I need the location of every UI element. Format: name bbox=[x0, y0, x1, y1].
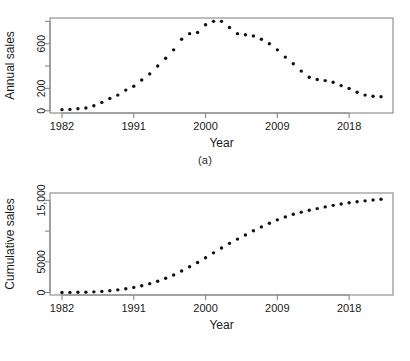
data-point bbox=[108, 289, 111, 292]
data-point bbox=[124, 88, 127, 91]
x-axis-tick-label: 1982 bbox=[50, 120, 74, 132]
data-point bbox=[363, 199, 366, 202]
data-point bbox=[347, 201, 350, 204]
x-axis-tick-label: 2000 bbox=[193, 120, 217, 132]
y-axis-title: Annual sales bbox=[3, 31, 17, 100]
data-point bbox=[252, 34, 255, 37]
data-point bbox=[236, 32, 239, 35]
data-point bbox=[308, 209, 311, 212]
data-point bbox=[132, 286, 135, 289]
data-point bbox=[156, 64, 159, 67]
chart-panel-a: 020060019821991200020092018YearAnnual sa… bbox=[0, 0, 410, 175]
data-point bbox=[236, 237, 239, 240]
x-axis-tick-label: 2009 bbox=[265, 302, 289, 314]
data-point bbox=[379, 198, 382, 201]
y-axis-tick-label: 0 bbox=[35, 108, 47, 114]
data-point bbox=[164, 277, 167, 280]
x-axis-tick-label: 1991 bbox=[122, 302, 146, 314]
figure-container: 020060019821991200020092018YearAnnual sa… bbox=[0, 0, 410, 361]
data-point bbox=[212, 20, 215, 23]
y-axis-tick-label: 15,000 bbox=[35, 184, 47, 216]
y-axis-tick-label: 200 bbox=[35, 79, 47, 97]
data-point bbox=[324, 205, 327, 208]
data-point bbox=[204, 256, 207, 259]
data-point bbox=[60, 291, 63, 294]
x-axis-tick-label: 2018 bbox=[337, 302, 361, 314]
data-point bbox=[180, 269, 183, 272]
data-point bbox=[379, 95, 382, 98]
data-point bbox=[132, 84, 135, 87]
y-axis-title: Cumulative sales bbox=[3, 198, 17, 289]
data-point bbox=[268, 42, 271, 45]
data-point bbox=[172, 48, 175, 51]
data-point bbox=[371, 95, 374, 98]
data-point bbox=[140, 284, 143, 287]
data-point bbox=[228, 26, 231, 29]
data-point bbox=[68, 291, 71, 294]
data-point bbox=[220, 20, 223, 23]
data-point bbox=[92, 290, 95, 293]
data-point bbox=[355, 91, 358, 94]
data-point bbox=[300, 210, 303, 213]
data-point bbox=[260, 225, 263, 228]
data-point bbox=[92, 104, 95, 107]
data-point bbox=[156, 280, 159, 283]
annual-sales-scatter-plot: 020060019821991200020092018YearAnnual sa… bbox=[0, 0, 410, 175]
data-point bbox=[284, 55, 287, 58]
data-point bbox=[339, 84, 342, 87]
data-point bbox=[331, 204, 334, 207]
data-point bbox=[276, 48, 279, 51]
data-point bbox=[292, 62, 295, 65]
data-point bbox=[60, 108, 63, 111]
plot-frame bbox=[50, 18, 393, 113]
cumulative-sales-scatter-plot: 0500015,00019821991200020092018YearCumul… bbox=[0, 175, 410, 361]
data-point bbox=[268, 222, 271, 225]
data-point bbox=[276, 218, 279, 221]
data-point bbox=[252, 229, 255, 232]
data-point bbox=[188, 32, 191, 35]
x-axis-tick-label: 1982 bbox=[50, 302, 74, 314]
y-axis-tick-label: 0 bbox=[35, 289, 47, 295]
data-point bbox=[228, 242, 231, 245]
x-axis-tick-label: 2000 bbox=[193, 302, 217, 314]
data-point-series bbox=[60, 20, 382, 112]
data-point bbox=[76, 107, 79, 110]
data-point bbox=[84, 106, 87, 109]
data-point bbox=[260, 38, 263, 41]
data-point bbox=[308, 76, 311, 79]
x-axis-title: Year bbox=[209, 136, 233, 150]
y-axis-tick-label: 5000 bbox=[35, 250, 47, 274]
data-point bbox=[108, 97, 111, 100]
data-point bbox=[164, 57, 167, 60]
data-point bbox=[371, 198, 374, 201]
data-point bbox=[244, 233, 247, 236]
data-point bbox=[124, 287, 127, 290]
data-point bbox=[355, 200, 358, 203]
data-point bbox=[324, 79, 327, 82]
data-point bbox=[196, 31, 199, 34]
data-point bbox=[220, 246, 223, 249]
data-point bbox=[316, 207, 319, 210]
data-point bbox=[100, 101, 103, 104]
data-point bbox=[84, 290, 87, 293]
data-point bbox=[196, 261, 199, 264]
x-axis-tick-label: 1991 bbox=[122, 120, 146, 132]
data-point bbox=[292, 213, 295, 216]
x-axis-tick-label: 2018 bbox=[337, 120, 361, 132]
plot-frame bbox=[50, 193, 393, 295]
data-point-series bbox=[60, 198, 382, 295]
x-axis-title: Year bbox=[209, 318, 233, 332]
data-point bbox=[68, 108, 71, 111]
data-point bbox=[339, 202, 342, 205]
data-point bbox=[212, 251, 215, 254]
x-axis-tick-label: 2009 bbox=[265, 120, 289, 132]
data-point bbox=[116, 288, 119, 291]
data-point bbox=[331, 81, 334, 84]
y-axis-tick-label: 600 bbox=[35, 35, 47, 53]
data-point bbox=[188, 265, 191, 268]
data-point bbox=[300, 69, 303, 72]
panel-a-caption: (a) bbox=[0, 154, 410, 166]
data-point bbox=[347, 87, 350, 90]
data-point bbox=[148, 282, 151, 285]
data-point bbox=[316, 78, 319, 81]
